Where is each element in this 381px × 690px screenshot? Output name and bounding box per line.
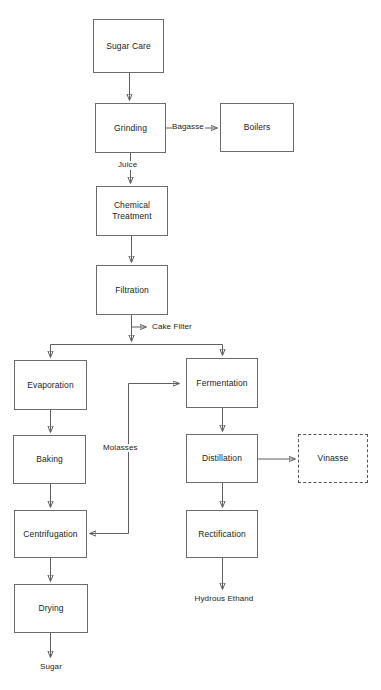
node-evaporation-label: Evaporation	[25, 380, 75, 391]
node-grinding[interactable]: Grinding	[95, 103, 166, 153]
node-baking[interactable]: Baking	[13, 435, 86, 484]
node-chemical-treatment-label: Chemical Treatment	[110, 200, 153, 221]
node-distillation-label: Distillation	[200, 453, 244, 464]
flowchart-canvas: Sugar Care Grinding Boilers Chemical Tre…	[0, 0, 381, 690]
node-drying[interactable]: Drying	[14, 584, 88, 633]
edge-label-bagasse: Bagasse	[172, 123, 204, 131]
node-sugar-cane-label: Sugar Care	[104, 41, 152, 52]
node-fermentation-label: Fermentation	[194, 378, 249, 389]
terminal-label-hydrous-ethanol: Hydrous Ethand	[178, 595, 270, 603]
node-vinasse-label: Vinasse	[316, 453, 351, 464]
node-distillation[interactable]: Distillation	[186, 434, 258, 483]
node-drying-label: Drying	[36, 603, 65, 614]
node-fermentation[interactable]: Fermentation	[186, 358, 258, 408]
node-filtration[interactable]: Filtration	[96, 265, 168, 315]
node-chemical-treatment[interactable]: Chemical Treatment	[96, 186, 168, 236]
node-baking-label: Baking	[34, 454, 65, 465]
node-grinding-label: Grinding	[112, 123, 149, 134]
node-sugar-cane[interactable]: Sugar Care	[93, 19, 164, 73]
edge-label-cake-filter: Cake Filter	[152, 323, 192, 331]
edge-label-juice: Juice	[118, 161, 137, 169]
node-centrifugation[interactable]: Centrifugation	[14, 510, 87, 558]
node-evaporation[interactable]: Evaporation	[14, 360, 87, 410]
node-rectification[interactable]: Rectification	[186, 510, 258, 558]
node-boilers-label: Boilers	[242, 122, 273, 133]
node-boilers[interactable]: Boilers	[220, 103, 294, 152]
edge-molasses-loop	[129, 384, 180, 534]
node-centrifugation-label: Centrifugation	[21, 529, 79, 540]
terminal-label-sugar: Sugar	[32, 663, 70, 671]
node-rectification-label: Rectification	[196, 529, 248, 540]
edge-label-molasses: Molasses	[103, 444, 138, 452]
node-filtration-label: Filtration	[113, 285, 151, 296]
node-vinasse[interactable]: Vinasse	[298, 434, 368, 483]
